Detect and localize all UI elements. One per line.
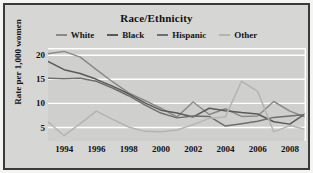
figure-frame: Race/Ethnicity White Black Hispanic Othe… <box>3 3 310 170</box>
legend-swatch-white <box>56 34 67 36</box>
x-tick-label: 2002 <box>184 144 202 154</box>
x-tick-label: 2000 <box>152 144 170 154</box>
x-tick-label: 1998 <box>120 144 138 154</box>
legend-swatch-black <box>107 34 118 36</box>
chart-legend: White Black Hispanic Other <box>5 30 308 40</box>
x-tick-label: 2006 <box>249 144 267 154</box>
legend-label-white: White <box>71 30 95 40</box>
chart-screenshot: Race/Ethnicity White Black Hispanic Othe… <box>0 0 313 173</box>
x-tick-label: 1994 <box>55 144 73 154</box>
legend-label-black: Black <box>122 30 144 40</box>
y-tick-label: 10 <box>36 98 45 108</box>
legend-item-hispanic[interactable]: Hispanic <box>157 30 206 40</box>
legend-item-other[interactable]: Other <box>219 30 257 40</box>
legend-item-white[interactable]: White <box>56 30 95 40</box>
page-title: Race/Ethnicity <box>5 12 308 24</box>
line-chart-canvas <box>48 48 306 141</box>
x-tick-label: 2008 <box>281 144 299 154</box>
legend-swatch-hispanic <box>157 34 168 36</box>
y-tick-label: 5 <box>41 123 46 133</box>
legend-label-other: Other <box>234 30 257 40</box>
y-axis-label: Rate per 1,000 women <box>13 12 23 112</box>
legend-item-black[interactable]: Black <box>107 30 144 40</box>
x-tick-label: 1996 <box>87 144 105 154</box>
plot-area: 5101520 19941996199820002002200420062008 <box>48 48 306 141</box>
legend-swatch-other <box>219 34 230 36</box>
y-tick-label: 15 <box>36 74 45 84</box>
y-tick-label: 20 <box>36 50 45 60</box>
legend-label-hispanic: Hispanic <box>172 30 206 40</box>
x-tick-label: 2004 <box>216 144 234 154</box>
